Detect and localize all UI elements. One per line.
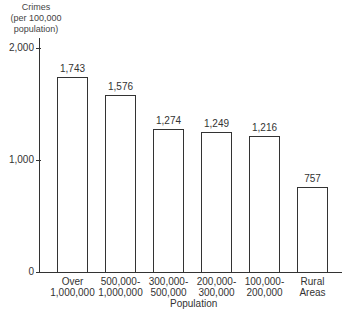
y-tick: [36, 48, 41, 49]
y-axis-line: [39, 38, 40, 273]
y-axis-title-line: (per 100,000: [0, 13, 72, 24]
y-tick: [36, 272, 41, 273]
y-axis-title-line: population): [0, 24, 72, 35]
category-label: RuralAreas: [283, 276, 343, 298]
bar: [153, 129, 184, 272]
bar-value-label: 1,743: [48, 63, 98, 74]
y-axis-title: Crimes (per 100,000 population): [0, 2, 72, 35]
category-label-line: Areas: [283, 287, 343, 298]
y-tick-label: 0: [0, 266, 34, 277]
category-label-line: Rural: [283, 276, 343, 287]
bar: [57, 77, 88, 272]
y-tick-label: 1,000: [0, 154, 34, 165]
bar: [249, 136, 280, 272]
bar: [105, 95, 136, 272]
y-axis-title-line: Crimes: [0, 2, 72, 13]
y-tick-label: 2,000: [0, 42, 34, 53]
x-axis-line: [36, 272, 342, 273]
bar-value-label: 1,274: [144, 115, 194, 126]
bar-value-label: 757: [288, 173, 338, 184]
x-axis-title: Population: [170, 298, 217, 309]
bar: [297, 187, 328, 272]
bar-value-label: 1,249: [192, 118, 242, 129]
bar-value-label: 1,216: [240, 122, 290, 133]
bar-value-label: 1,576: [96, 81, 146, 92]
bar: [201, 132, 232, 272]
y-tick: [36, 160, 41, 161]
